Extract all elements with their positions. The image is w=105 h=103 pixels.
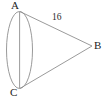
slant-length-label: 16	[52, 12, 62, 22]
vertex-label-b: B	[94, 40, 101, 51]
vertex-label-a: A	[11, 0, 19, 11]
vertex-label-c: C	[10, 87, 17, 98]
cone-geometry-diagram: A B C 16	[0, 0, 105, 103]
